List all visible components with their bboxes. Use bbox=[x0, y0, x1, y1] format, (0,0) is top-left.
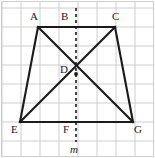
vertex-label-a: A bbox=[30, 11, 38, 22]
vertex-label-f: F bbox=[63, 124, 69, 135]
vertex-label-g: G bbox=[134, 124, 142, 135]
diagram-canvas bbox=[0, 0, 155, 158]
vertex-label-c: C bbox=[112, 11, 119, 22]
vertex-label-d: D bbox=[60, 64, 68, 75]
geometry-diagram: A B C D E F G m bbox=[0, 0, 155, 158]
vertex-label-e: E bbox=[11, 124, 18, 135]
vertex-label-b: B bbox=[61, 11, 68, 22]
intersection-point-d bbox=[74, 72, 78, 76]
diagram-frame bbox=[2, 2, 154, 157]
line-label-m: m bbox=[70, 144, 78, 155]
